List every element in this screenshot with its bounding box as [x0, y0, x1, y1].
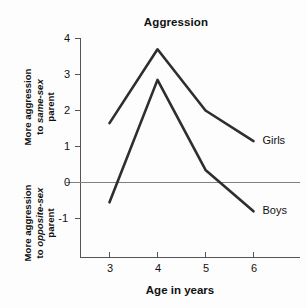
x-tick-label-3: 3: [100, 262, 120, 274]
y-axis-caption-upper: More aggression to same-sex parent: [22, 37, 57, 177]
y-caption-lower-line3: parent: [45, 208, 56, 237]
y-tick-marks: [75, 39, 81, 219]
x-tick-label-5: 5: [196, 262, 216, 274]
y-caption-upper-line1: More aggression: [22, 69, 33, 146]
x-tick-label-4: 4: [148, 262, 168, 274]
y-axis-caption-lower: More aggression to opposite-sex parent: [22, 178, 57, 268]
chart-figure: Aggression 4 3 2 1 0 -1 3: [0, 0, 307, 308]
y-caption-upper-line2-prefix: to: [34, 123, 45, 135]
x-axis-title: Age in years: [80, 284, 280, 296]
y-caption-lower-line1: More aggression: [22, 185, 33, 262]
series-line-boys: [110, 80, 254, 211]
y-caption-upper-line3: parent: [45, 92, 56, 121]
series-label-boys: Boys: [263, 204, 287, 216]
x-tick-label-6: 6: [244, 262, 264, 274]
y-caption-upper-line2-em: same-sex: [34, 79, 45, 123]
x-tick-marks: [110, 252, 254, 258]
series-label-girls: Girls: [263, 134, 286, 146]
y-caption-lower-line2-prefix: to: [34, 247, 45, 259]
y-caption-lower-line2-em: opposite-sex: [34, 188, 45, 247]
